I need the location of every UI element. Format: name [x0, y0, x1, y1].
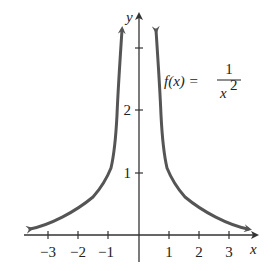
function-denominator: x: [219, 85, 227, 101]
x-tick-label: 1: [165, 244, 173, 260]
function-lhs: f(x) =: [164, 73, 199, 90]
x-tick-label: −1: [98, 244, 114, 260]
curve-left-branch: [30, 30, 122, 229]
function-numerator: 1: [225, 61, 233, 77]
function-label: f(x) = 1 x 2: [164, 61, 241, 101]
curve-right-branch: [156, 30, 248, 229]
x-tick-label: 2: [195, 244, 203, 260]
x-tick-label: −2: [70, 244, 86, 260]
y-tick-label: 1: [124, 165, 132, 181]
graph: y x −3 −2 −1 1 2 3 1 2 f(x) = 1 x 2: [0, 0, 279, 271]
y-axis-label: y: [124, 9, 133, 25]
x-tick-label: 3: [225, 244, 233, 260]
x-tick-label: −3: [40, 244, 56, 260]
function-exponent: 2: [230, 77, 238, 93]
y-tick-label: 2: [124, 102, 132, 118]
x-axis-label: x: [249, 241, 257, 257]
